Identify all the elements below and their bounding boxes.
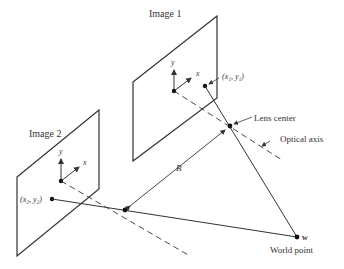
image2-x-label: x [82, 158, 87, 167]
lens-center-1 [228, 124, 233, 129]
lens-center-leader [234, 117, 252, 124]
point2-label: (x₂, y₂) [20, 195, 42, 204]
optical-axis-label: Optical axis [280, 134, 324, 144]
image2-label: Image 2 [29, 128, 62, 139]
image1-plane [133, 16, 217, 161]
image2-x-axis [61, 167, 79, 181]
image1-x-label: x [195, 69, 200, 78]
ray-2 [52, 199, 297, 237]
baseline-label: B [176, 163, 182, 173]
optical-axis-leader [262, 141, 270, 146]
image1-label: Image 1 [149, 8, 182, 19]
point1-label: (x₁, y₁) [222, 72, 244, 81]
stereo-diagram: Image 1 Image 2 y x y x (x₁, y₁) (x₂, y₂… [0, 0, 344, 269]
ray-1 [205, 86, 297, 237]
image1-x-axis [174, 78, 191, 91]
lens-center-label: Lens center [254, 113, 296, 123]
world-point-symbol: w [302, 233, 308, 242]
image2-y-label: y [58, 147, 63, 156]
lens-center-2 [123, 208, 128, 213]
optical-axis-2 [61, 181, 190, 256]
world-point-label: World point [270, 245, 314, 255]
world-point [295, 235, 300, 240]
image1-y-label: y [170, 58, 175, 67]
